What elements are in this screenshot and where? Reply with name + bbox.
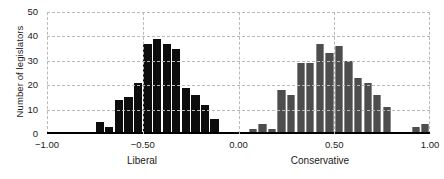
bar	[316, 44, 324, 134]
bar	[115, 100, 123, 134]
bar	[182, 88, 190, 134]
bar	[325, 53, 333, 134]
bar	[134, 83, 142, 134]
x-tick-0.50: 0.50	[312, 140, 356, 150]
bar	[287, 95, 295, 134]
y-tick-0: 0	[12, 129, 38, 139]
bar	[143, 44, 151, 134]
gridline-x--0.5	[143, 12, 144, 134]
bar	[383, 107, 391, 134]
gridline-x-0	[239, 12, 240, 134]
plot-area	[47, 12, 430, 134]
bar	[153, 39, 161, 134]
x-tick-0.00: 0.00	[217, 140, 261, 150]
y-tick-40: 40	[12, 31, 38, 41]
group-label-liberal: Liberal	[82, 155, 202, 166]
group-label-conservative: Conservative	[260, 155, 380, 166]
bar	[277, 90, 285, 134]
bar	[344, 61, 352, 134]
y-tick-10: 10	[12, 105, 38, 115]
x-tick-1.00: 1.00	[408, 140, 444, 150]
bar	[373, 95, 381, 134]
y-tick-50: 50	[12, 7, 38, 17]
y-axis-tick-labels: 01020304050	[12, 0, 38, 179]
bar	[191, 95, 199, 134]
bar	[306, 63, 314, 134]
bar	[364, 83, 372, 134]
x-tick--1.00: −1.00	[25, 140, 69, 150]
bar	[297, 63, 305, 134]
x-tick--0.50: −0.50	[121, 140, 165, 150]
y-tick-30: 30	[12, 56, 38, 66]
y-tick-20: 20	[12, 80, 38, 90]
bar	[354, 78, 362, 134]
gridline-x-0.5	[334, 12, 335, 134]
bar	[124, 97, 132, 134]
bar	[335, 46, 343, 134]
bar	[163, 44, 171, 134]
